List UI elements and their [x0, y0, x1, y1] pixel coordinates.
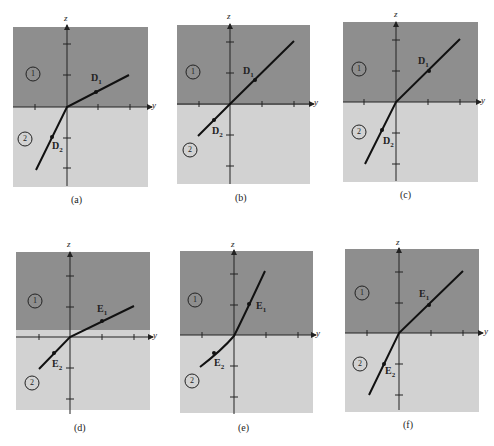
- y-axis-label: y: [152, 101, 156, 110]
- panel-c: [343, 22, 481, 182]
- caption-c: (c): [400, 190, 411, 200]
- y-axis-label: y: [481, 96, 485, 105]
- arrow-head-top: [427, 303, 431, 307]
- caption-d: (d): [74, 423, 86, 433]
- z-axis-label: z: [231, 240, 235, 249]
- z-axis-label: z: [64, 14, 68, 23]
- region-2-label: 2: [25, 379, 39, 387]
- arrow-head-top: [247, 302, 251, 306]
- panel-d: [16, 252, 153, 414]
- field-bottom-label: E2: [52, 359, 62, 372]
- region-1: [343, 22, 478, 102]
- region-1-label: 1: [28, 297, 42, 305]
- y-axis-label: y: [316, 329, 320, 338]
- field-bottom-label: D2: [212, 126, 223, 139]
- region-2: [13, 107, 148, 187]
- field-bottom-label: E2: [385, 366, 395, 379]
- region-2: [180, 335, 313, 413]
- field-top-label: D1: [243, 66, 254, 79]
- arrow-head-bottom: [212, 351, 216, 355]
- region-1: [16, 252, 150, 330]
- region-2: [345, 333, 479, 412]
- field-top-label: D1: [91, 73, 102, 86]
- region-2: [177, 105, 310, 184]
- region-1-label: 1: [355, 289, 369, 297]
- region-2-label: 2: [353, 360, 367, 368]
- arrow-head-bottom: [380, 128, 384, 132]
- arrow-head-bottom: [50, 135, 54, 139]
- arrow-head-top: [100, 319, 104, 323]
- field-top-label: D1: [418, 56, 429, 69]
- field-bottom-label: D2: [383, 136, 394, 149]
- region-2: [343, 102, 478, 182]
- caption-f: (f): [403, 420, 413, 430]
- region-2-label: 2: [185, 377, 199, 385]
- panel-e: [180, 250, 316, 414]
- region-2-label: 2: [352, 128, 366, 136]
- y-axis-label: y: [484, 327, 488, 336]
- region-2-label: 2: [18, 135, 32, 143]
- z-axis-label: z: [67, 240, 71, 249]
- z-axis-label: z: [394, 10, 398, 19]
- caption-b: (b): [235, 193, 247, 203]
- field-top-label: E1: [419, 289, 429, 302]
- caption-a: (a): [71, 195, 82, 205]
- arrow-head-bottom: [52, 351, 56, 355]
- field-top-label: E1: [256, 301, 266, 314]
- field-bottom-label: D2: [52, 141, 63, 154]
- field-top-label: E1: [97, 304, 107, 317]
- region-2: [16, 330, 150, 410]
- region-2-label: 2: [183, 146, 197, 154]
- z-axis-label: z: [396, 238, 400, 247]
- region-1-label: 1: [186, 68, 200, 76]
- y-axis-label: y: [153, 331, 157, 340]
- region-1-label: 1: [188, 296, 202, 304]
- z-axis-label: z: [227, 12, 231, 21]
- panel-b: [177, 24, 314, 184]
- arrow-head-top: [94, 90, 98, 94]
- region-1-label: 1: [352, 65, 366, 73]
- panel-a: [13, 25, 152, 187]
- panel-f: [345, 248, 483, 412]
- region-1: [180, 251, 313, 335]
- field-bottom-label: E2: [214, 358, 224, 371]
- arrow-head-bottom: [212, 118, 216, 122]
- y-axis-label: y: [314, 98, 318, 107]
- region-1-label: 1: [26, 70, 40, 78]
- caption-e: (e): [238, 423, 249, 433]
- arrow-head-top: [427, 69, 431, 73]
